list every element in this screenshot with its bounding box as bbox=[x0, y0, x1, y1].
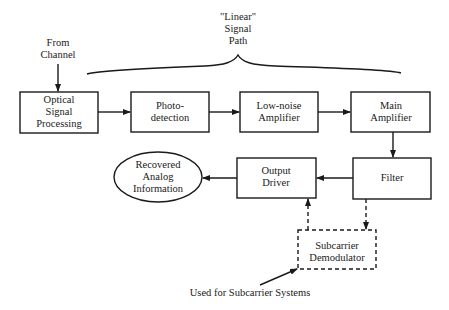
low-noise-amplifier-label: Low-noise Amplifier bbox=[257, 100, 302, 124]
subcarrier-line-2: Demodulator bbox=[309, 252, 364, 264]
from-channel-label: From Channel bbox=[41, 37, 76, 61]
from-channel-line-2: Channel bbox=[41, 49, 76, 61]
output-driver-line-2: Driver bbox=[261, 177, 290, 189]
optical-line-1: Optical bbox=[36, 94, 82, 106]
brace-label-line-3: Path bbox=[220, 35, 256, 47]
subcarrier-line-1: Subcarrier bbox=[309, 240, 364, 252]
optical-line-2: Signal bbox=[36, 106, 82, 118]
main-amplifier-label: Main Amplifier bbox=[370, 100, 411, 124]
linear-signal-path-label: "Linear" Signal Path bbox=[220, 11, 256, 47]
subcarrier-note: Used for Subcarrier Systems bbox=[190, 287, 310, 299]
filter-label: Filter bbox=[381, 172, 404, 184]
lna-line-1: Low-noise bbox=[257, 100, 302, 112]
arrow-note-to-subcarrier bbox=[260, 269, 297, 285]
photo-line-1: Photo- bbox=[151, 100, 189, 112]
optical-line-3: Processing bbox=[36, 118, 82, 130]
lna-line-2: Amplifier bbox=[257, 112, 302, 124]
filter-line-1: Filter bbox=[381, 172, 404, 184]
optical-signal-processing-label: Optical Signal Processing bbox=[36, 94, 82, 130]
from-channel-line-1: From bbox=[41, 37, 76, 49]
recovered-line-2: Analog bbox=[133, 171, 183, 183]
subcarrier-demodulator-label: Subcarrier Demodulator bbox=[309, 240, 364, 264]
photo-detection-label: Photo- detection bbox=[151, 100, 189, 124]
brace-label-line-1: "Linear" bbox=[220, 11, 256, 23]
photo-line-2: detection bbox=[151, 112, 189, 124]
recovered-analog-information-label: Recovered Analog Information bbox=[133, 159, 183, 195]
main-amp-line-1: Main bbox=[370, 100, 411, 112]
recovered-line-3: Information bbox=[133, 183, 183, 195]
output-driver-line-1: Output bbox=[261, 165, 290, 177]
recovered-line-1: Recovered bbox=[133, 159, 183, 171]
linear-path-brace bbox=[87, 55, 401, 74]
brace-label-line-2: Signal bbox=[220, 23, 256, 35]
output-driver-label: Output Driver bbox=[261, 165, 290, 189]
main-amp-line-2: Amplifier bbox=[370, 112, 411, 124]
